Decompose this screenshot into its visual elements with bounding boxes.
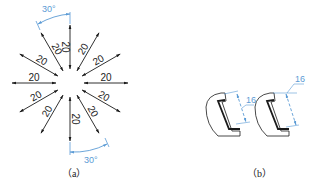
dimension-value-20: 20 [91,52,107,67]
angle-dimension-top: 30° [36,4,70,30]
dimension-value-20: 20 [97,88,113,103]
dimension-value-20: 20 [86,104,101,120]
dimension-16-right: 16 [295,74,305,84]
angle-label-top: 30° [42,4,56,14]
technical-drawing: 202020202020202020202020 30° 30° （a） 16 … [0,0,313,186]
angle-dimension-bottom: 30° [70,138,109,165]
dimension-value-20: 20 [100,72,112,83]
caption-a: （a） [62,168,86,179]
angle-label-bottom: 30° [84,155,98,165]
figure-a-radial-dimensions: 202020202020202020202020 [12,25,128,141]
figure-b-left-part: 16 [206,91,256,136]
dimension-value-20: 20 [75,41,90,57]
dimension-value-20: 20 [28,88,44,103]
dimension-value-20: 20 [39,103,54,119]
figure-b-right-part: 16 [255,74,305,136]
caption-b: （b） [247,168,272,179]
dimension-value-20: 20 [70,113,81,125]
dimension-value-20: 20 [28,72,40,83]
dimension-16-left: 16 [246,95,256,105]
dimension-value-20: 20 [34,52,50,67]
